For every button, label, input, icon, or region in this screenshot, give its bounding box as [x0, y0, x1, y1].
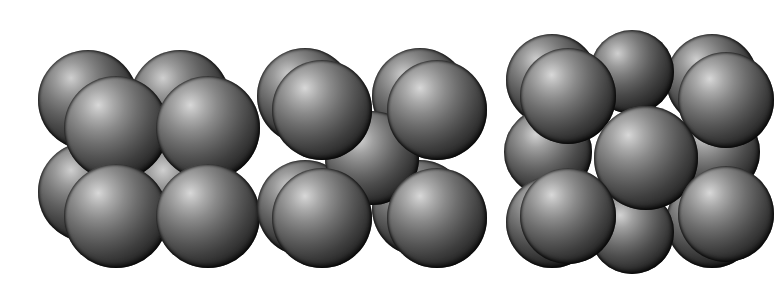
atom-sphere-front-bottom-left	[64, 164, 168, 268]
atom-sphere-back-top-left	[257, 48, 353, 144]
atom-sphere-back-top-right	[666, 34, 758, 126]
atom-sphere-back-top-left	[506, 34, 598, 126]
atom-sphere-right-face-center	[672, 108, 760, 196]
crystal-lattice-figure: Crystal lattice unit cells (space-fillin…	[0, 0, 784, 294]
atom-sphere-back-bottom-left	[506, 176, 598, 268]
cell-caption-body-centered-cubic: Body-centered cubic unit cell	[0, 0, 1, 1]
cell-caption-simple-cubic: Simple cubic unit cell	[0, 0, 1, 1]
atom-sphere-front-bottom-right	[678, 166, 774, 262]
atom-sphere-back-top-right	[130, 50, 230, 150]
atom-sphere-back-top-right	[372, 48, 468, 144]
figure-title: Crystal lattice unit cells (space-fillin…	[0, 0, 1, 1]
atom-sphere-front-top-right	[387, 60, 487, 160]
atom-sphere-back-bottom-right	[666, 176, 758, 268]
atom-sphere-front-top-right	[678, 52, 774, 148]
atom-sphere-front-top-left	[520, 48, 616, 144]
atom-sphere-left-face-center	[504, 108, 592, 196]
atom-sphere-front-bottom-left	[272, 168, 372, 268]
atom-sphere-back-bottom-left	[257, 160, 353, 256]
atom-sphere-front-bottom-right	[156, 164, 260, 268]
atom-sphere-front-top-left	[272, 60, 372, 160]
atom-sphere-body-center	[325, 111, 419, 205]
atom-sphere-top-face-center	[590, 30, 674, 114]
atom-sphere-front-top-left	[64, 76, 168, 180]
atom-sphere-bottom-face-center	[590, 190, 674, 274]
atom-sphere-front-bottom-right	[387, 168, 487, 268]
atom-sphere-back-bottom-right	[130, 142, 230, 242]
unit-cell-body-centered-cubic	[0, 0, 784, 294]
atom-sphere-back-bottom-right	[372, 160, 468, 256]
atom-sphere-back-top-left	[38, 50, 138, 150]
cell-caption-face-centered-cubic: Face-centered cubic unit cell	[0, 0, 1, 1]
unit-cell-face-centered-cubic	[0, 0, 784, 294]
caption-layer: Crystal lattice unit cells (space-fillin…	[0, 0, 784, 294]
atom-sphere-front-bottom-left	[520, 168, 616, 264]
atom-sphere-back-bottom-left	[38, 142, 138, 242]
unit-cell-simple-cubic	[0, 0, 784, 294]
atom-sphere-front-top-right	[156, 76, 260, 180]
atom-sphere-front-face-center	[594, 106, 698, 210]
